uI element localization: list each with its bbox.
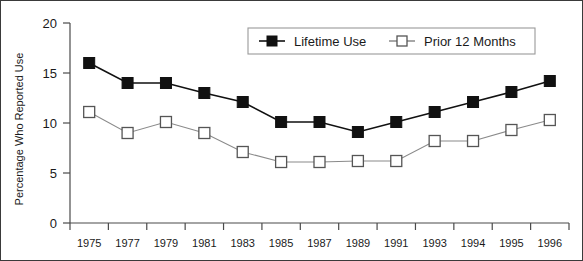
legend-label-lifetime-use: Lifetime Use [294, 34, 366, 49]
data-point-marker [391, 156, 402, 167]
y-tick-label: 15 [43, 66, 57, 81]
data-point-marker [237, 97, 248, 108]
y-tick-label: 20 [43, 16, 57, 31]
x-tick-label: 1994 [461, 237, 485, 249]
data-point-marker [84, 107, 95, 118]
legend-label-prior-12-months: Prior 12 Months [424, 34, 516, 49]
data-point-marker [84, 58, 95, 69]
data-point-marker [199, 88, 210, 99]
data-point-marker [314, 117, 325, 128]
data-point-marker [468, 97, 479, 108]
data-point-marker [122, 78, 133, 89]
x-tick-label: 1995 [499, 237, 523, 249]
legend-marker-open-square [397, 36, 407, 46]
data-point-marker [160, 117, 171, 128]
x-tick-label: 1996 [538, 237, 562, 249]
data-point-marker [199, 128, 210, 139]
x-tick-label: 1979 [154, 237, 178, 249]
data-point-marker [237, 147, 248, 158]
data-point-marker [352, 127, 363, 138]
data-point-marker [544, 115, 555, 126]
y-tick-label: 0 [50, 216, 57, 231]
x-tick-label: 1977 [115, 237, 139, 249]
y-tick-label: 10 [43, 116, 57, 131]
chart-figure: Percentage Who Reported Use 05101520 197… [0, 0, 583, 261]
data-point-marker [276, 117, 287, 128]
x-tick-label: 1983 [230, 237, 254, 249]
data-point-marker [506, 87, 517, 98]
legend-marker-filled-square [267, 36, 277, 46]
x-tick-label: 1989 [346, 237, 370, 249]
data-point-marker [160, 78, 171, 89]
data-point-marker [122, 128, 133, 139]
x-tick-label: 1993 [422, 237, 446, 249]
x-tick-label: 1987 [307, 237, 331, 249]
data-point-marker [544, 76, 555, 87]
data-point-marker [391, 117, 402, 128]
data-point-marker [468, 136, 479, 147]
x-tick-label: 1991 [384, 237, 408, 249]
data-point-marker [429, 136, 440, 147]
data-point-marker [352, 156, 363, 167]
x-tick-label: 1985 [269, 237, 293, 249]
chart-legend: Lifetime Use Prior 12 Months [248, 28, 535, 54]
x-tick-label: 1975 [77, 237, 101, 249]
line-chart: Percentage Who Reported Use 05101520 197… [1, 1, 583, 261]
data-point-marker [506, 125, 517, 136]
y-tick-label: 5 [50, 166, 57, 181]
y-axis-title: Percentage Who Reported Use [13, 53, 25, 206]
data-point-marker [276, 157, 287, 168]
data-point-marker [429, 107, 440, 118]
data-point-marker [314, 157, 325, 168]
x-tick-label: 1981 [192, 237, 216, 249]
